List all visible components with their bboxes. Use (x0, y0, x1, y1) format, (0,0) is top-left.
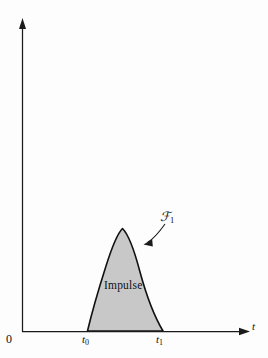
origin-label: 0 (6, 333, 12, 345)
callout-arrow-icon (144, 239, 153, 246)
x-tick-label-t1-subscript: 1 (159, 338, 163, 347)
callout-leader-line (148, 224, 166, 243)
force-curve-label-symbol: ℱ (160, 209, 170, 224)
x-axis-label: t (252, 321, 255, 332)
x-tick-label-t0: t0 (82, 334, 89, 347)
impulse-figure: 0 t t0 t1 Impulse ℱ1 (0, 0, 268, 358)
figure-canvas (0, 0, 268, 358)
y-axis-arrow-icon (19, 18, 26, 29)
x-tick-label-t0-subscript: 0 (85, 338, 89, 347)
force-curve-label: ℱ1 (160, 210, 174, 224)
x-tick-label-t1: t1 (156, 334, 163, 347)
force-curve-label-subscript: 1 (170, 215, 174, 225)
impulse-region-label: Impulse (104, 280, 142, 292)
x-axis-arrow-icon (239, 328, 250, 335)
